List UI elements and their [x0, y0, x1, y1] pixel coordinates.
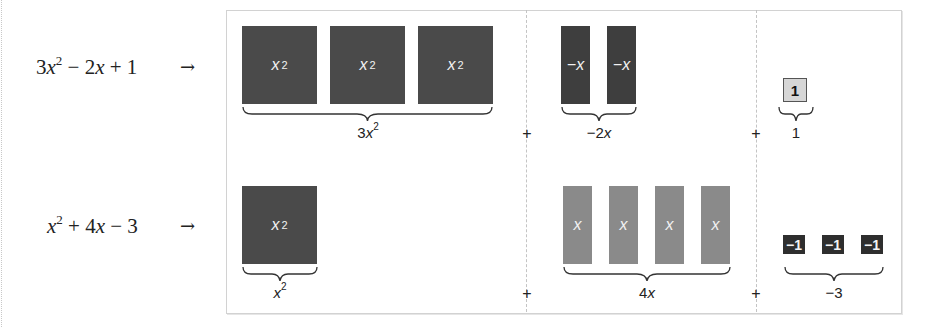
plus-sign: + — [522, 285, 531, 303]
group-label-neg-3: −3 — [825, 284, 842, 301]
curly-brace-icon — [778, 106, 814, 122]
group-label-3x2: 3x2 — [357, 124, 378, 141]
unit-tile: 1 — [783, 78, 807, 102]
plus-sign: + — [751, 125, 760, 143]
x-tile: x — [655, 186, 684, 264]
group-label-1: 1 — [792, 124, 800, 141]
column-divider — [756, 10, 757, 312]
right-arrow-icon: → — [180, 56, 195, 77]
plus-sign: + — [751, 285, 760, 303]
expr-term: + 1 — [105, 55, 138, 79]
x-squared-tile: x2 — [418, 26, 493, 104]
expr-term: + 4 — [63, 214, 96, 238]
x-tile: x — [563, 186, 592, 264]
expr-coef: 3 — [36, 55, 47, 79]
expression-row-1: 3x2 − 2x + 1 — [36, 55, 137, 80]
negative-unit-tile: −1 — [861, 235, 883, 254]
x-squared-tile: x2 — [242, 186, 317, 264]
x-squared-tile: x2 — [330, 26, 405, 104]
x-squared-tile: x2 — [242, 26, 317, 104]
curly-brace-icon — [242, 266, 318, 282]
curly-brace-icon — [561, 106, 637, 122]
left-margin-rule — [1, 0, 2, 327]
expr-term: − 2 — [62, 55, 95, 79]
expression-row-2: x2 + 4x − 3 — [47, 214, 138, 239]
negative-unit-tile: −1 — [783, 235, 805, 254]
x-tile: x — [701, 186, 730, 264]
expr-var: x — [47, 55, 56, 79]
group-label-x2: x2 — [273, 284, 286, 301]
negative-x-tile: −x — [561, 26, 590, 104]
right-arrow-icon: → — [180, 215, 195, 236]
group-label-4x: 4x — [639, 284, 655, 301]
expr-var: x — [96, 214, 105, 238]
expr-var: x — [47, 214, 56, 238]
curly-brace-icon — [784, 266, 884, 282]
negative-unit-tile: −1 — [822, 235, 844, 254]
column-divider — [526, 10, 527, 312]
plus-sign: + — [522, 125, 531, 143]
negative-x-tile: −x — [607, 26, 636, 104]
curly-brace-icon — [563, 266, 731, 282]
x-tile: x — [609, 186, 638, 264]
curly-brace-icon — [242, 106, 493, 122]
expr-var: x — [95, 55, 104, 79]
group-label-neg-2x: −2x — [587, 124, 612, 141]
expr-term: − 3 — [105, 214, 138, 238]
